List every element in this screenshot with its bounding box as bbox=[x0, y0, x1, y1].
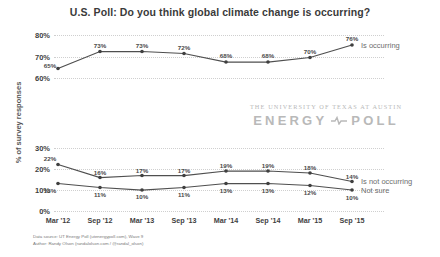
data-label: 13% bbox=[35, 187, 65, 194]
data-label: 68% bbox=[253, 52, 283, 59]
data-label: 19% bbox=[253, 162, 283, 169]
data-label: 11% bbox=[169, 191, 199, 198]
data-label: 65% bbox=[35, 62, 65, 69]
data-label: 17% bbox=[169, 167, 199, 174]
credit-line-author: Author: Randy Olson (randalolson.com / @… bbox=[33, 241, 143, 248]
data-label: 73% bbox=[127, 42, 157, 49]
data-label: 18% bbox=[295, 164, 325, 171]
data-label: 11% bbox=[85, 191, 115, 198]
credit-line-source: Data source: UT Energy Poll (utenergypol… bbox=[33, 234, 143, 241]
data-label: 10% bbox=[337, 194, 367, 201]
data-label: 16% bbox=[85, 169, 115, 176]
watermark-university-line: THE UNIVERSITY OF TEXAS AT AUSTIN bbox=[226, 103, 426, 110]
series-label-is-not-occurring: Is not occurring bbox=[361, 177, 412, 186]
ut-energy-poll-watermark: THE UNIVERSITY OF TEXAS AT AUSTIN ENERGY… bbox=[226, 103, 426, 128]
watermark-word-poll: POLL bbox=[351, 113, 398, 128]
chart-title: U.S. Poll: Do you think global climate c… bbox=[0, 6, 440, 18]
y-tick-70: 70% bbox=[16, 53, 50, 62]
y-tick-80: 80% bbox=[16, 31, 50, 40]
data-label: 10% bbox=[127, 193, 157, 200]
watermark-energy-poll-line: ENERGY POLL bbox=[226, 113, 426, 128]
data-label: 70% bbox=[295, 48, 325, 55]
gridline-60 bbox=[54, 78, 384, 79]
data-label: 73% bbox=[85, 42, 115, 49]
data-label: 12% bbox=[295, 189, 325, 196]
y-tick-20: 20% bbox=[16, 165, 50, 174]
gridline-80 bbox=[54, 35, 384, 36]
data-label: 72% bbox=[169, 44, 199, 51]
data-label: 22% bbox=[35, 155, 65, 162]
x-tick-label: Sep '15 bbox=[324, 216, 380, 225]
data-label: 13% bbox=[253, 187, 283, 194]
y-tick-30: 30% bbox=[16, 144, 50, 153]
pulse-waveform-icon bbox=[331, 116, 347, 125]
series-label-not-sure: Not sure bbox=[361, 186, 389, 195]
climate-poll-line-chart: U.S. Poll: Do you think global climate c… bbox=[0, 0, 440, 257]
y-tick-0: 0% bbox=[16, 207, 50, 216]
data-label: 68% bbox=[211, 52, 241, 59]
y-tick-60: 60% bbox=[16, 74, 50, 83]
gridline-0 bbox=[54, 211, 384, 212]
series-label-is-occurring: Is occurring bbox=[361, 41, 400, 50]
gridline-30 bbox=[54, 148, 384, 149]
data-label: 17% bbox=[127, 167, 157, 174]
data-label: 13% bbox=[211, 187, 241, 194]
data-label: 19% bbox=[211, 162, 241, 169]
watermark-word-energy: ENERGY bbox=[253, 113, 327, 128]
